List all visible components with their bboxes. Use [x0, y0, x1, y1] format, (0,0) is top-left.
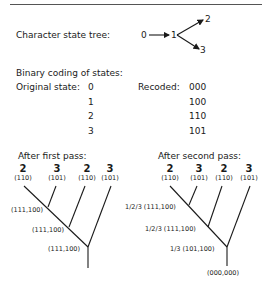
diagram-lines: [0, 0, 269, 282]
